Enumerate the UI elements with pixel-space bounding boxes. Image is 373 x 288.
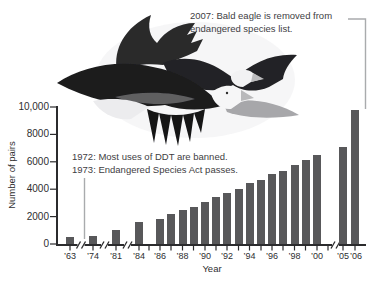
annotation-1973-line: 1973: Endangered Species Act passes. <box>72 164 238 177</box>
bald-eagle-recovery-figure: 0200040006000800010,000 ’63’74’81’84’86’… <box>0 0 373 288</box>
axes-layer <box>0 0 373 288</box>
annotation-2007-line2: endangered species list. <box>190 22 362 35</box>
annotation-2007: 2007: Bald eagle is removed from endange… <box>190 9 362 35</box>
annotation-1972-1973: 1972: Most uses of DDT are banned. 1973:… <box>72 151 238 176</box>
axis-break-icon <box>331 242 340 249</box>
annotation-2007-line1: 2007: Bald eagle is removed from <box>190 9 362 22</box>
axis-break-icon <box>100 242 109 249</box>
axis-break-icon <box>123 242 132 249</box>
annotation-1972-line: 1972: Most uses of DDT are banned. <box>72 151 238 164</box>
axis-break-icon <box>77 242 86 249</box>
